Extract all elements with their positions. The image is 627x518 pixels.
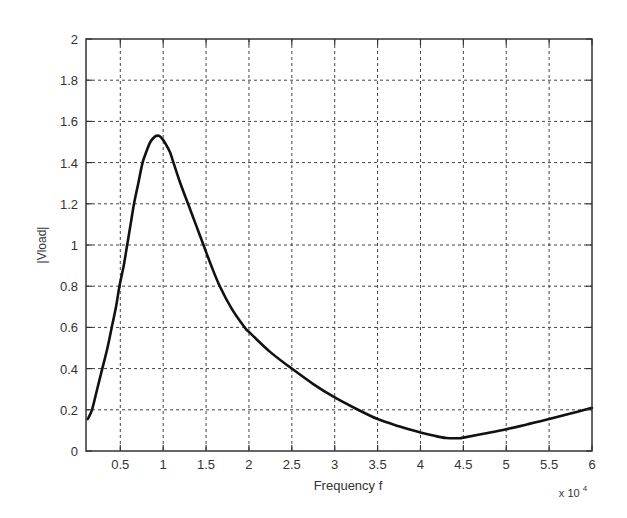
y-tick-label: 1 <box>71 238 78 253</box>
x-multiplier-base: x 10 <box>559 487 580 499</box>
y-tick-label: 2 <box>71 32 78 47</box>
chart-figure: 0.511.522.533.544.555.56 00.20.40.60.811… <box>0 0 627 518</box>
y-axis-label: |Vload| <box>35 227 49 264</box>
y-tick-label: 0.2 <box>60 403 78 418</box>
grid-lines <box>86 39 592 451</box>
x-axis-tick-labels: 0.511.522.533.544.555.56 <box>111 457 595 472</box>
x-tick-label: 1 <box>160 457 167 472</box>
y-tick-label: 0.4 <box>60 362 78 377</box>
x-tick-label: 2 <box>245 457 252 472</box>
x-axis-multiplier: x 10 4 <box>559 484 588 499</box>
x-tick-label: 4.5 <box>454 457 472 472</box>
y-axis-tick-labels: 00.20.40.60.811.21.41.61.82 <box>60 32 78 459</box>
x-tick-label: 3 <box>331 457 338 472</box>
x-tick-label: 5 <box>503 457 510 472</box>
x-tick-label: 4 <box>417 457 424 472</box>
y-tick-label: 1.2 <box>60 197 78 212</box>
x-tick-label: 5.5 <box>540 457 558 472</box>
x-tick-label: 2.5 <box>283 457 301 472</box>
chart-canvas: 0.511.522.533.544.555.56 00.20.40.60.811… <box>0 0 627 518</box>
y-tick-label: 1.4 <box>60 156 78 171</box>
x-tick-label: 0.5 <box>111 457 129 472</box>
x-tick-label: 1.5 <box>197 457 215 472</box>
x-tick-label: 6 <box>588 457 595 472</box>
y-tick-label: 0.6 <box>60 320 78 335</box>
x-axis-label: Frequency f <box>314 478 383 493</box>
y-tick-label: 1.6 <box>60 114 78 129</box>
x-multiplier-exponent: 4 <box>583 484 588 493</box>
y-tick-label: 0.8 <box>60 279 78 294</box>
y-tick-label: 1.8 <box>60 73 78 88</box>
y-tick-label: 0 <box>71 444 78 459</box>
x-tick-label: 3.5 <box>369 457 387 472</box>
